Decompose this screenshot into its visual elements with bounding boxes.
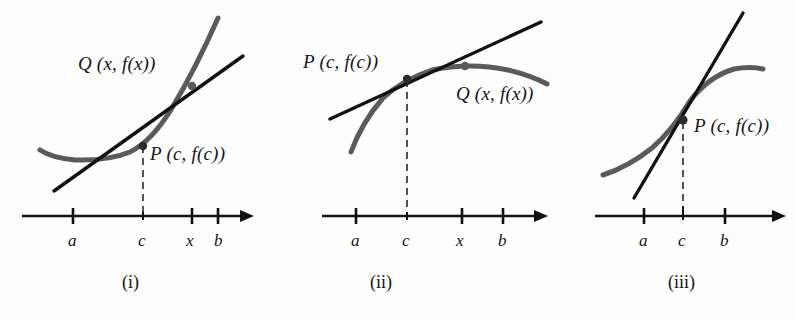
tangent-line-i: [54, 56, 243, 191]
tick-label-b-i: b: [214, 232, 223, 249]
axis-arrowhead-iii: [772, 210, 786, 222]
point-label-p-i: P (c, f(c)): [150, 144, 225, 163]
point-label-p-ii: P (c, f(c)): [303, 52, 378, 71]
point-label-q-ii: Q (x, f(x)): [456, 84, 534, 103]
tick-label-c-iii: c: [678, 232, 686, 249]
point-q-i: [188, 82, 196, 90]
tick-label-x-i: x: [186, 232, 194, 249]
tick-label-a-ii: a: [351, 232, 360, 249]
caption-panel-ii: (ii): [370, 273, 392, 291]
point-label-p-iii: P (c, f(c)): [694, 116, 769, 135]
tangent-line-iii: [634, 13, 743, 198]
point-p-ii: [403, 75, 411, 83]
tick-label-c-ii: c: [402, 232, 410, 249]
tick-label-b-ii: b: [498, 232, 507, 249]
point-q-ii: [461, 62, 469, 70]
axis-arrowhead-ii: [534, 210, 548, 222]
tick-label-c-i: c: [138, 232, 146, 249]
figure-root: Q (x, f(x)) P (c, f(c)) a c x b (i) P (c…: [0, 0, 795, 320]
tick-label-b-iii: b: [720, 232, 729, 249]
caption-panel-iii: (iii): [668, 273, 695, 291]
caption-panel-i: (i): [122, 273, 139, 291]
axis-arrowhead-i: [240, 210, 254, 222]
tick-label-x-ii: x: [456, 232, 464, 249]
curve-ii: [351, 66, 547, 152]
tick-label-a-iii: a: [639, 232, 648, 249]
point-label-q-i: Q (x, f(x)): [78, 54, 156, 73]
tick-label-a-i: a: [68, 232, 77, 249]
point-p-iii: [678, 115, 687, 124]
point-p-i: [139, 142, 147, 150]
panel-i-graphics: [22, 18, 254, 224]
